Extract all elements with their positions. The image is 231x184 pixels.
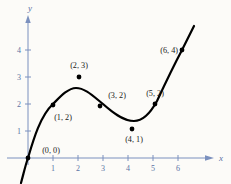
point-2-3 — [77, 75, 82, 80]
polynomial-fit-figure: x 1 2 3 4 5 6 y 1 2 3 4 — [0, 0, 231, 184]
point-6-4 — [180, 48, 185, 53]
point-1-2 — [51, 103, 56, 108]
point-label-6-4: (6, 4) — [160, 46, 178, 55]
point-0-0 — [26, 156, 31, 161]
point-label-4-1: (4, 1) — [125, 135, 143, 144]
point-5-2 — [153, 102, 158, 107]
y-tick-label-3: 3 — [17, 73, 21, 82]
y-tick-label-2: 2 — [17, 100, 21, 109]
point-4-1 — [130, 127, 135, 132]
x-axis-arrowhead-icon — [205, 155, 214, 160]
data-points — [26, 48, 185, 161]
graph-canvas: x 1 2 3 4 5 6 y 1 2 3 4 — [0, 0, 231, 184]
y-axis-arrowhead-icon — [25, 15, 30, 23]
y-axis-title: y — [27, 3, 32, 13]
x-tick-label-2: 2 — [76, 164, 80, 173]
point-label-0-0: (0, 0) — [42, 146, 60, 155]
point-3-2 — [98, 104, 103, 109]
x-tick-label-4: 4 — [126, 164, 130, 173]
y-axis: y 1 2 3 4 — [17, 3, 32, 165]
x-tick-label-6: 6 — [176, 164, 180, 173]
point-label-5-2: (5, 2) — [146, 89, 164, 98]
y-tick-label-4: 4 — [17, 46, 21, 55]
x-axis: x 1 2 3 4 5 6 — [7, 153, 223, 173]
point-label-2-3: (2, 3) — [70, 61, 88, 70]
x-tick-label-3: 3 — [101, 164, 105, 173]
y-tick-label-1: 1 — [17, 127, 21, 136]
x-axis-title: x — [218, 153, 223, 163]
x-tick-label-5: 5 — [151, 164, 155, 173]
x-tick-label-1: 1 — [51, 164, 55, 173]
point-label-3-2: (3, 2) — [108, 91, 126, 100]
point-label-1-2: (1, 2) — [54, 113, 72, 122]
